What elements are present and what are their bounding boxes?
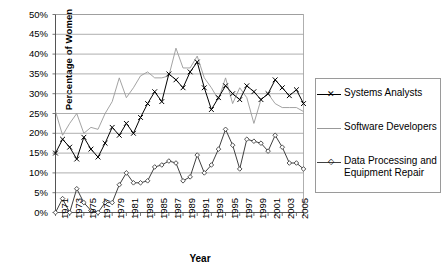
y-axis-tick: 10% bbox=[14, 168, 48, 178]
y-axis-tick: 45% bbox=[14, 29, 48, 39]
x-axis-tick: 1973 bbox=[74, 197, 84, 218]
y-axis-tick: 30% bbox=[14, 89, 48, 99]
x-axis-tick: 1997 bbox=[244, 197, 254, 218]
legend-marker-diamond-icon: ◇ bbox=[316, 156, 342, 168]
y-axis-tick: 15% bbox=[14, 148, 48, 158]
x-axis-tick: 1985 bbox=[159, 197, 169, 218]
x-axis-tick: 2001 bbox=[272, 197, 282, 218]
y-axis-tick: 35% bbox=[14, 69, 48, 79]
x-axis-tick: 1981 bbox=[130, 197, 140, 218]
y-axis-tick: 40% bbox=[14, 49, 48, 59]
x-axis-tick: 1979 bbox=[116, 197, 126, 218]
y-axis-tick: 0% bbox=[14, 208, 48, 218]
x-axis-tick: 2005 bbox=[300, 197, 310, 218]
legend-marker-line-icon bbox=[316, 122, 342, 134]
legend-item-systems-analysts[interactable]: ✕ Systems Analysts bbox=[316, 87, 442, 100]
legend-item-software-developers[interactable]: Software Developers bbox=[316, 121, 442, 134]
x-axis-tick: 1971 bbox=[60, 197, 70, 218]
y-axis-tick: 20% bbox=[14, 128, 48, 138]
x-axis-tick: 1983 bbox=[145, 197, 155, 218]
x-axis-title: Year bbox=[140, 253, 260, 264]
y-axis-tick: 25% bbox=[14, 109, 48, 119]
x-axis-tick: 1991 bbox=[201, 197, 211, 218]
x-axis-tick: 1975 bbox=[88, 197, 98, 218]
legend-label: Data Processing and Equipment Repair bbox=[342, 155, 442, 179]
chart-legend: ✕ Systems Analysts Software Developers ◇… bbox=[315, 78, 441, 193]
x-axis-tick: 1995 bbox=[230, 197, 240, 218]
x-axis-tick: 1999 bbox=[258, 197, 268, 218]
x-axis-tick: 2003 bbox=[286, 197, 296, 218]
legend-item-data-processing[interactable]: ◇ Data Processing and Equipment Repair bbox=[316, 155, 442, 179]
x-axis-tick: 1989 bbox=[187, 197, 197, 218]
legend-label: Software Developers bbox=[342, 121, 437, 133]
x-axis-tick: 1993 bbox=[215, 197, 225, 218]
legend-marker-x-icon: ✕ bbox=[316, 88, 342, 100]
y-axis-tick: 50% bbox=[14, 10, 48, 20]
legend-label: Systems Analysts bbox=[342, 87, 422, 99]
y-axis-tick: 5% bbox=[14, 188, 48, 198]
x-axis-tick: 1987 bbox=[173, 197, 183, 218]
chart-figure: Percentage of Women 0%5%10%15%20%25%30%3… bbox=[0, 0, 444, 275]
x-axis-tick: 1977 bbox=[102, 197, 112, 218]
